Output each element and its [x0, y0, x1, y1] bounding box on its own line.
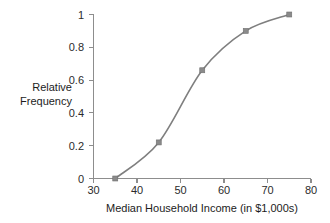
series-line-relative-frequency	[115, 15, 289, 179]
ogive-chart: 1 0.8 0.6 0.4 0.2 0 30 40 50 60 70 80 Me…	[0, 0, 330, 223]
y-tick-label-0.2: 0.2	[69, 140, 84, 152]
x-tick-label-50: 50	[174, 184, 186, 196]
y-tick-label-1: 1	[78, 9, 84, 21]
y-axis-title-line1: Relative	[32, 81, 72, 93]
chart-figure: 1 0.8 0.6 0.4 0.2 0 30 40 50 60 70 80 Me…	[0, 0, 330, 223]
x-tick-label-70: 70	[261, 184, 273, 196]
data-point-marker	[243, 28, 248, 33]
data-point-marker	[287, 12, 292, 17]
x-tick-label-40: 40	[131, 184, 143, 196]
y-axis-title-line2: Frequency	[20, 95, 72, 107]
x-tick-label-30: 30	[87, 184, 99, 196]
data-point-marker	[113, 176, 118, 181]
x-tick-label-80: 80	[305, 184, 317, 196]
data-point-marker	[200, 68, 205, 73]
y-tick-label-0.8: 0.8	[69, 41, 84, 53]
x-axis-title: Median Household Income (in $1,000s)	[106, 202, 298, 214]
y-tick-label-0: 0	[78, 173, 84, 185]
x-tick-label-60: 60	[218, 184, 230, 196]
data-point-marker	[156, 140, 161, 145]
y-tick-label-0.4: 0.4	[69, 107, 84, 119]
